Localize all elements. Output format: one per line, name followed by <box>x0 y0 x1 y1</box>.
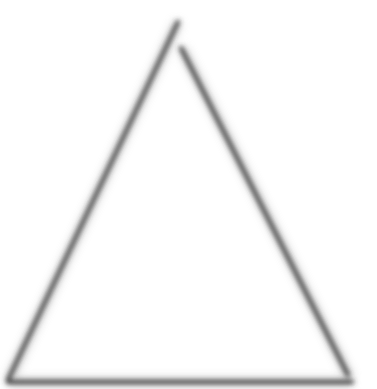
triangle-figure <box>0 0 377 389</box>
left-edge <box>8 22 178 380</box>
right-edge <box>181 48 348 375</box>
triangle-shadow <box>8 22 352 382</box>
triangle-outline <box>8 22 352 382</box>
